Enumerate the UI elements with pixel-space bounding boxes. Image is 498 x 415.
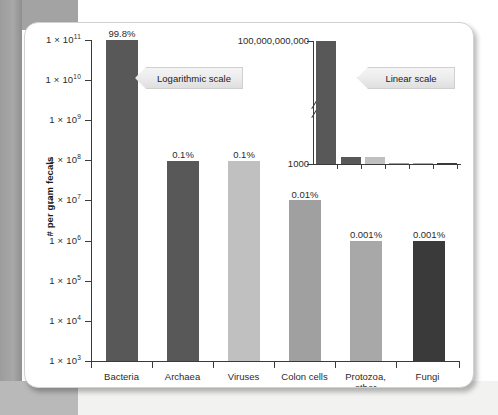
inset-x-tick-6 (457, 164, 458, 169)
y-tick-label-1e10: 1 × 1010 (45, 74, 81, 85)
inset-bar-archaea[interactable] (341, 157, 361, 164)
inset-bar-viruses[interactable] (365, 157, 385, 164)
y-tick-1e7 (85, 200, 92, 201)
x-label-fungi: Fungi (396, 371, 459, 382)
y-tick-1e8 (85, 160, 92, 161)
inset-x-tick-5 (433, 164, 434, 169)
inset-x-tick-1 (337, 164, 338, 169)
x-tick-2 (213, 361, 214, 368)
y-tick-label-1e3: 1 × 103 (49, 355, 81, 366)
y-axis-line (91, 40, 92, 362)
x-axis-line (91, 361, 460, 362)
page-left-gray-band (0, 0, 22, 415)
bar-bacteria[interactable] (106, 40, 138, 361)
inset-x-tick-4 (409, 164, 410, 169)
inset-x-axis-line (313, 164, 461, 165)
inset-bar-colon-cells[interactable] (389, 163, 409, 165)
y-tick-label-1e4: 1 × 104 (49, 315, 81, 326)
y-tick-1e6 (85, 241, 92, 242)
inset-x-tick-2 (361, 164, 362, 169)
bar-value-colon-cells: 0.01% (279, 189, 331, 200)
bar-archaea[interactable] (167, 161, 199, 361)
inset-bar-bacteria[interactable] (316, 41, 336, 164)
x-label-bacteria: Bacteria (91, 371, 152, 382)
x-tick-3 (274, 361, 275, 368)
x-tick-1 (152, 361, 153, 368)
y-tick-label-1e6: 1 × 106 (49, 235, 81, 246)
y-tick-1e9 (85, 120, 92, 121)
bar-value-fungi: 0.001% (401, 229, 457, 240)
x-label-viruses: Viruses (213, 371, 274, 382)
inset-bar-fungi[interactable] (437, 163, 457, 164)
x-tick-4 (335, 361, 336, 368)
y-tick-1e5 (85, 281, 92, 282)
inset-x-tick-3 (385, 164, 386, 169)
logarithmic-scale-callout-label: Logarithmic scale (157, 73, 231, 84)
bar-value-archaea: 0.1% (157, 149, 209, 160)
main-bar-chart: # per gram fecals 1 × 1011 1 × 1010 1 × … (25, 23, 473, 387)
y-tick-1e4 (85, 321, 92, 322)
y-tick-label-1e9: 1 × 109 (49, 114, 81, 125)
y-tick-label-1e7: 1 × 107 (49, 194, 81, 205)
inset-linear-chart: 100,000,000,000 1000 (261, 37, 461, 169)
y-tick-1e11 (85, 40, 92, 41)
figure-card: # per gram fecals 1 × 1011 1 × 1010 1 × … (24, 22, 474, 388)
x-tick-0 (91, 361, 92, 368)
x-tick-5 (396, 361, 397, 368)
bar-value-protozoa-other: 0.001% (338, 229, 394, 240)
bar-value-bacteria: 99.8% (96, 28, 148, 39)
bar-colon-cells[interactable] (289, 200, 321, 361)
bar-viruses[interactable] (228, 161, 260, 361)
x-tick-6 (459, 361, 460, 368)
y-tick-label-1e11: 1 × 1011 (46, 34, 81, 45)
inset-y-label-bottom: 1000 (288, 158, 309, 169)
x-label-colon-cells: Colon cells (274, 371, 335, 382)
x-label-archaea: Archaea (152, 371, 213, 382)
inset-bar-protozoa-other[interactable] (413, 163, 433, 164)
y-tick-label-1e8: 1 × 108 (49, 154, 81, 165)
bar-fungi[interactable] (413, 241, 445, 361)
y-tick-1e10 (85, 80, 92, 81)
x-label-protozoa-other: Protozoa,other (335, 371, 396, 388)
bar-protozoa-other[interactable] (350, 241, 382, 361)
logarithmic-scale-callout: Logarithmic scale (135, 67, 243, 89)
y-tick-label-1e5: 1 × 105 (49, 275, 81, 286)
inset-y-label-top: 100,000,000,000 (238, 35, 309, 46)
